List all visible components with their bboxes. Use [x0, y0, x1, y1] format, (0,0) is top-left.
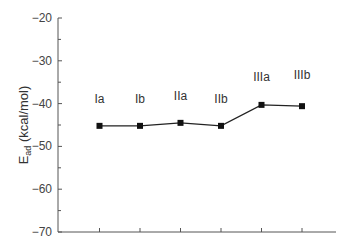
point-label: IIIb [294, 68, 311, 82]
data-point-marker [218, 123, 224, 129]
y-tick-label: −30 [32, 54, 53, 68]
data-point-marker [178, 120, 184, 126]
point-label: IIb [214, 92, 228, 106]
point-label: Ia [94, 92, 104, 106]
data-point-marker [137, 123, 143, 129]
y-tick-label: −40 [32, 97, 53, 111]
data-point-marker [299, 103, 305, 109]
y-axis-ticks: −20−30−40−50−60−70 [32, 11, 62, 239]
y-axis-label: Ead (kcal/mol) [16, 86, 33, 165]
data-point-marker [259, 102, 265, 108]
line-chart: −20−30−40−50−60−70 IaIbIIaIIbIIIaIIIb Ea… [0, 0, 346, 246]
point-label: IIIa [253, 70, 270, 84]
series-line [100, 105, 303, 126]
y-tick-label: −60 [32, 182, 53, 196]
point-label: Ib [135, 92, 145, 106]
y-tick-label: −20 [32, 11, 53, 25]
y-tick-label: −50 [32, 139, 53, 153]
x-axis-ticks [100, 228, 303, 232]
y-tick-label: −70 [32, 225, 53, 239]
point-labels: IaIbIIaIIbIIIaIIIb [94, 68, 310, 106]
data-point-marker [97, 123, 103, 129]
point-label: IIa [174, 89, 188, 103]
data-series [97, 102, 306, 129]
